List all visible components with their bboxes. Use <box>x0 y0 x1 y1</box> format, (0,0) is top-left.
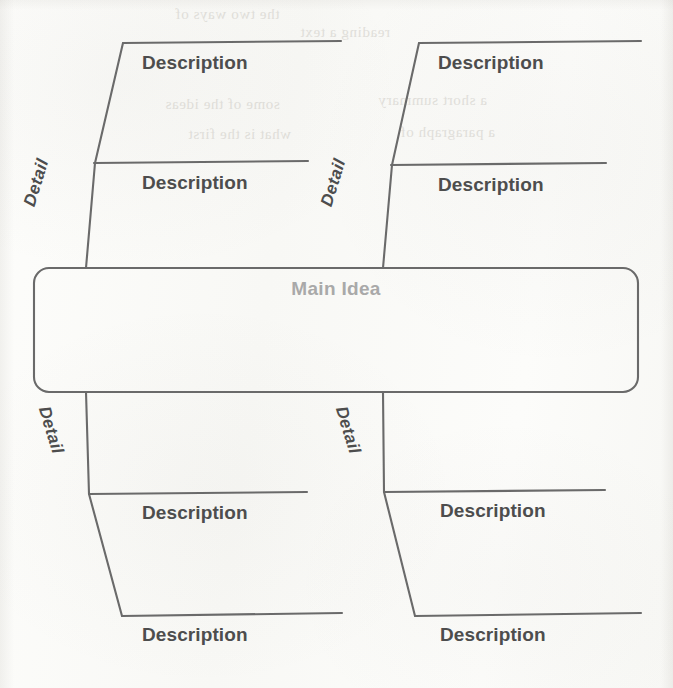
branch-line-top-right-2 <box>391 163 606 165</box>
branch-line-top-left-2 <box>94 161 308 163</box>
branch-line-bottom-left-1 <box>89 492 307 494</box>
branch-line-top-right-1 <box>419 41 641 43</box>
branch-line-bottom-right-1 <box>384 490 605 492</box>
diagram-lines <box>0 0 673 688</box>
spine-top-right <box>383 43 419 268</box>
worksheet-page: the two ways of reading a text some of t… <box>0 0 673 688</box>
spine-bottom-left <box>86 392 122 616</box>
spine-top-left <box>86 43 123 268</box>
main-idea-box[interactable] <box>34 268 638 392</box>
branch-line-bottom-right-2 <box>415 613 641 616</box>
branch-line-top-left-1 <box>123 41 341 43</box>
spine-bottom-right <box>383 392 415 616</box>
branch-line-bottom-left-2 <box>122 613 342 616</box>
